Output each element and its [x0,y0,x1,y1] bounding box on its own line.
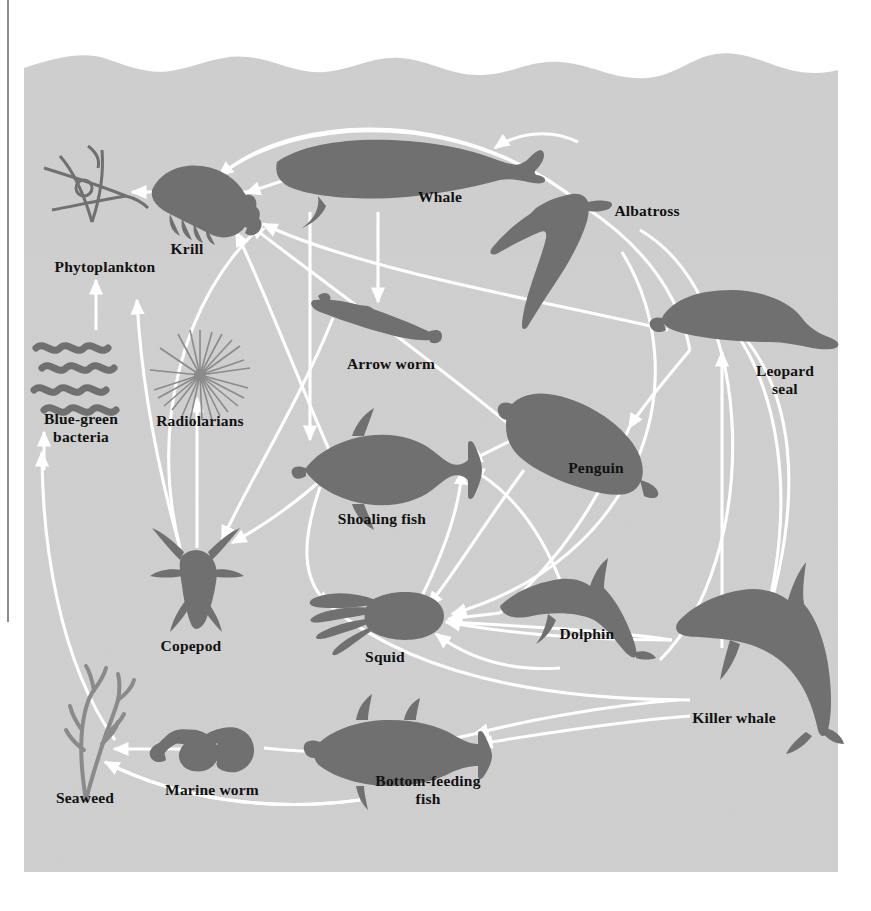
label-whale: Whale [418,188,462,206]
label-arrow-worm: Arrow worm [347,355,435,373]
label-krill: Krill [171,240,204,258]
label-albatross: Albatross [614,202,679,220]
label-bottom-feeding-fish: Bottom-feeding fish [375,772,480,809]
label-shoaling-fish: Shoaling fish [338,510,426,528]
label-squid: Squid [365,648,405,666]
label-blue-green-bacteria: Blue-green bacteria [44,410,118,447]
label-leopard-seal: Leopard seal [756,362,814,399]
label-seaweed: Seaweed [56,789,114,807]
label-copepod: Copepod [161,637,222,655]
food-web-figure: PhytoplanktonKrillWhaleAlbatrossArrow wo… [0,0,871,911]
label-marine-worm: Marine worm [165,781,259,799]
label-phytoplankton: Phytoplankton [55,258,156,276]
label-radiolarians: Radiolarians [156,412,244,430]
label-killer-whale: Killer whale [692,709,775,727]
label-penguin: Penguin [568,459,624,477]
label-dolphin: Dolphin [560,625,615,643]
